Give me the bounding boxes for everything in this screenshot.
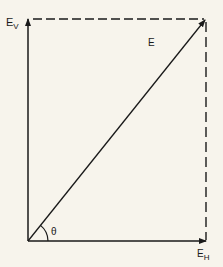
vertical-component-label: EV <box>6 16 19 31</box>
resultant-label: E <box>148 37 155 48</box>
angle-label: θ <box>51 226 57 237</box>
angle-arc <box>41 225 49 241</box>
resultant-vector-arrow <box>28 20 205 241</box>
vector-diagram: EV E θ EH <box>0 0 223 267</box>
horizontal-component-label: EH <box>197 248 210 262</box>
